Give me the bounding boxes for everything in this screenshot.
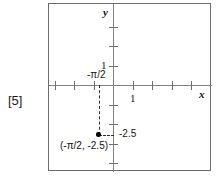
x-axis-label: x (199, 88, 205, 100)
y-tick-2 (109, 46, 118, 47)
x-unit-label: 1 (130, 92, 136, 104)
x-tick-1 (133, 81, 134, 90)
y-neg-two-point-five-label: -2.5 (119, 128, 136, 139)
x-pi-over-two-label: -π/2 (87, 69, 106, 80)
figure-root: [5] y x 1 1 -π/2 -2.5 (0, 0, 219, 178)
marks-allocation: [5] (8, 93, 22, 108)
y-tick-3 (109, 27, 118, 28)
x-tick-minus1 (94, 81, 95, 90)
y-tick-minus2 (109, 124, 118, 125)
x-tick-2 (152, 81, 153, 90)
x-tick-minus3 (55, 81, 56, 90)
y-tick-minus1 (109, 105, 118, 106)
y-tick-minus3 (109, 144, 118, 145)
y-axis-label: y (103, 6, 108, 18)
x-tick-4 (191, 81, 192, 90)
y-tick-1 (109, 66, 118, 67)
x-tick-minus2 (74, 81, 75, 90)
vertical-guide-dashed (99, 85, 100, 135)
plot-frame: y x 1 1 -π/2 -2.5 (-π/2, -2.5) (48, 3, 211, 171)
x-tick-3 (172, 81, 173, 90)
data-point (96, 132, 101, 137)
point-coordinate-label: (-π/2, -2.5) (60, 140, 108, 151)
y-axis-line (113, 4, 114, 172)
y-tick-minus4 (109, 163, 118, 164)
